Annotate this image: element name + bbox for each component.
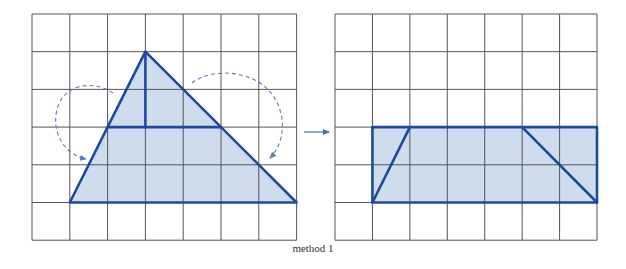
method-1-diagram [0,0,626,269]
right-grid-panel [335,14,597,240]
figure-caption: method 1 [0,242,626,254]
left-grid-panel [32,14,297,240]
